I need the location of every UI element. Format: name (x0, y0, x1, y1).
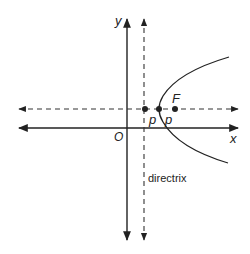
y-axis-label: y (114, 13, 123, 28)
directrix-point (142, 106, 148, 112)
x-axis-label: x (229, 131, 237, 146)
origin-label: O (114, 130, 123, 144)
vertex-point (156, 106, 162, 112)
directrix-label: directrix (148, 172, 187, 184)
p-label-right: p (164, 112, 172, 127)
parabola-diagram: y x O F p p directrix (0, 0, 250, 254)
p-label-left: p (148, 112, 156, 127)
focus-point (172, 106, 178, 112)
focus-label: F (172, 91, 181, 106)
parabola-curve (159, 57, 229, 163)
